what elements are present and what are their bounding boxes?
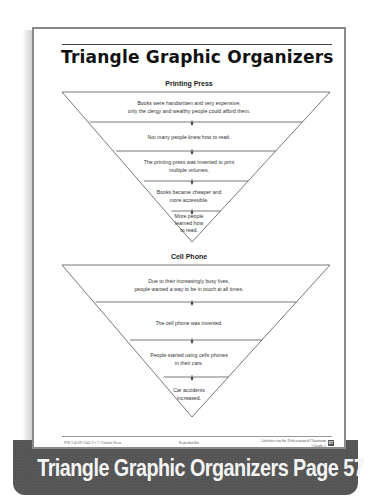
footer-isbn: 978-1-4129-5341-2 • © Corwin Press (64, 441, 121, 446)
footer-book-title: Activities for the Differentiated Classr… (252, 439, 326, 448)
footer-reproducible: Reproducible (179, 441, 199, 446)
worksheet-page: Triangle Graphic Organizers Printing Pre… (32, 27, 346, 449)
footer-book-title-line2: • Grade 1 (252, 444, 326, 449)
level-4-cell-phone: Car accidents increased. (159, 386, 219, 402)
level-text: People started using cells phones (129, 351, 249, 359)
caption-banner-text: Triangle Graphic Organizers Page 57 (37, 455, 334, 482)
page-number: 57 (328, 440, 334, 446)
footer-rule (62, 436, 332, 437)
level-text: Due to their increasingly busy lives, (74, 277, 304, 285)
level-2-cell-phone: The cell phone was invented. (104, 319, 274, 327)
level-text: The cell phone was invented. (104, 319, 274, 327)
level-text: Car accidents (159, 386, 219, 394)
level-text: in their cars. (129, 359, 249, 367)
level-1-cell-phone: Due to their increasingly busy lives, pe… (74, 277, 304, 293)
level-text: people wanted a way to be in touch at al… (74, 285, 304, 293)
level-text: increased. (159, 394, 219, 402)
footer-book-title-line1: Activities for the Differentiated Classr… (252, 439, 326, 444)
level-3-cell-phone: People started using cells phones in the… (129, 351, 249, 367)
